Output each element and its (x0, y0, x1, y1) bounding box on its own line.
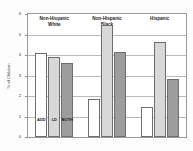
y-axis-tick: 0 (25, 137, 28, 138)
bar-group: Non-HispanicWhiteADDLDBOTH (28, 14, 81, 137)
y-axis-title: % of Children (7, 63, 11, 88)
bar-both[interactable]: BOTH (61, 63, 73, 137)
bar-group: Hispanic (133, 14, 186, 137)
bar-group: Non-HispanicBlack (81, 14, 134, 137)
bar-add[interactable] (141, 107, 153, 137)
bar-cluster (133, 14, 186, 137)
y-axis-tick-label: 2 (19, 94, 21, 98)
bar-ld[interactable] (154, 42, 166, 137)
y-axis-tick-label: 3 (19, 73, 21, 77)
y-axis-tick-label: 4 (19, 53, 21, 57)
bar-cluster: ADDLDBOTH (28, 14, 81, 137)
bar-both[interactable] (167, 79, 179, 137)
bar-both[interactable] (114, 52, 126, 137)
bar-ld[interactable] (101, 25, 113, 137)
y-axis-tick-label: 5 (19, 32, 21, 36)
bar-series-label: BOTH (62, 118, 73, 122)
bar-series-label: ADD (37, 118, 46, 122)
bar-ld[interactable]: LD (48, 57, 60, 137)
plot-area: 0123456 Non-HispanicWhiteADDLDBOTHNon-Hi… (27, 13, 187, 138)
chart-figure: % of Children 0123456 Non-HispanicWhiteA… (0, 0, 193, 151)
bar-add[interactable]: ADD (35, 53, 47, 137)
bar-series-label: LD (52, 118, 57, 122)
y-axis-tick-label: 6 (19, 12, 21, 16)
bar-cluster (81, 14, 134, 137)
bar-add[interactable] (88, 99, 100, 137)
y-axis-tick-label: 1 (19, 114, 21, 118)
y-axis-tick-label: 0 (19, 135, 21, 139)
